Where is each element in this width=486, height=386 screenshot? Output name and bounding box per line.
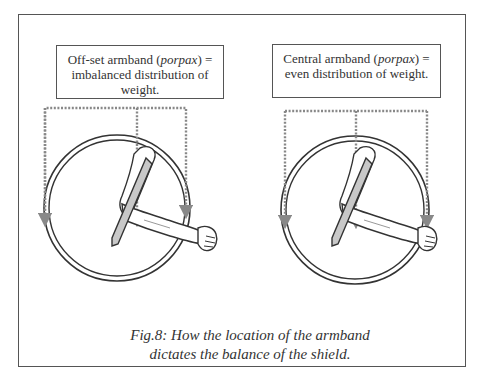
right-shield-diagram	[281, 111, 437, 284]
left-shield-diagram	[44, 108, 217, 281]
caption-line-1: Fig.8: How the location of the armband	[100, 326, 400, 345]
caption-line-2: dictates the balance of the shield.	[100, 345, 400, 364]
figure-caption: Fig.8: How the location of the armband d…	[100, 326, 400, 364]
shield-rim-inner	[49, 140, 185, 276]
